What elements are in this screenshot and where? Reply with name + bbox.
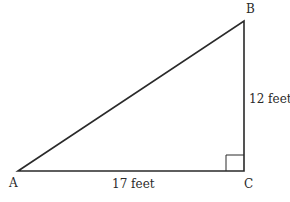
vertex-label-c: C bbox=[244, 178, 253, 190]
triangle-diagram bbox=[0, 0, 290, 202]
vertex-label-a: A bbox=[9, 177, 18, 189]
side-label-bc: 12 feet bbox=[249, 93, 290, 105]
right-angle-marker bbox=[226, 155, 244, 171]
triangle-abc bbox=[18, 21, 244, 171]
side-label-ac: 17 feet bbox=[112, 178, 155, 190]
vertex-label-b: B bbox=[246, 3, 255, 15]
